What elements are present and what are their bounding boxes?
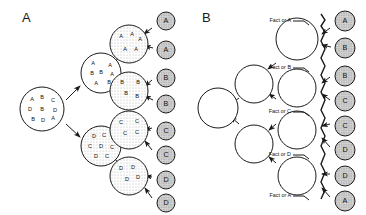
root-pool-letter-6: B xyxy=(31,116,35,122)
edge-b-lower-to-f4 xyxy=(269,157,276,163)
clone-pool-c-letter-1: C xyxy=(135,118,139,124)
edge-b-lower-to-f3 xyxy=(269,124,276,130)
clone-pool-a-letter-3: A xyxy=(123,46,127,52)
leaf-b-a-1-label: A xyxy=(343,16,348,25)
factor-label-a-bottom: Fact or A xyxy=(269,192,291,198)
mid-pool-ab-letter-5: A xyxy=(94,80,98,86)
leaf-b-1-label: B xyxy=(164,73,169,82)
mid-node-upper xyxy=(235,65,273,103)
mid-pool-ab-letter-6: B xyxy=(107,79,111,85)
panel-b: BFact or AFact or BFact or CFact or DFac… xyxy=(198,10,355,211)
factor-label-c: Fact or C xyxy=(269,108,291,114)
factor-label-b: Fact or B xyxy=(269,64,291,70)
edge-d-to-leaf2 xyxy=(145,188,152,198)
root-pool-letter-5: D xyxy=(53,107,57,113)
panel-label-A: A xyxy=(22,10,31,25)
mid-pool-ab-letter-4: A xyxy=(110,71,114,77)
factor-label-a-bottom-pointer xyxy=(293,196,309,200)
figure-svg: AABCDBDBDAAABBAABDCDCDCDCAAAAABBBBCCCCDD… xyxy=(0,0,366,215)
clone-pool-a xyxy=(110,25,148,63)
clone-pool-b xyxy=(110,72,148,110)
mid-pool-ab-letter-0: A xyxy=(91,60,95,66)
clone-pool-d-letter-3: D xyxy=(136,174,140,180)
clone-pool-d-letter-0: D xyxy=(119,165,123,171)
figure-root: AABCDBDBDAAABBAABDCDCDCDCAAAAABBBBCCCCDD… xyxy=(0,0,366,215)
leaf-c-2-label: C xyxy=(163,150,168,159)
leaf-b-a-2-label: A xyxy=(343,196,348,205)
mid-pool-ab-letter-3: B xyxy=(99,69,103,75)
clone-pool-a-letter-0: A xyxy=(119,33,123,39)
factor-label-d: Fact or D xyxy=(269,151,291,157)
factor-label-a-top: Fact or A xyxy=(269,17,291,23)
root-pool-letter-8: A xyxy=(51,115,55,121)
leaf-a-1-label: A xyxy=(164,16,169,25)
leaf-a-2-label: A xyxy=(164,45,169,54)
clone-pool-c-letter-0: C xyxy=(119,119,123,125)
leaf-d-2-label: D xyxy=(163,198,168,207)
root-pool-letter-0: A xyxy=(30,96,34,102)
mid-pool-cd-letter-0: D xyxy=(92,133,96,139)
leaf-c-1-label: C xyxy=(163,126,168,135)
leaf-b-c-2-label: C xyxy=(342,121,347,130)
clone-pool-b-letter-3: B xyxy=(135,93,139,99)
leaf-b-d-1-label: D xyxy=(342,145,347,154)
edge-root-to-ab xyxy=(66,86,80,100)
clone-pool-d-letter-2: D xyxy=(125,176,129,182)
leaf-d-1-label: D xyxy=(163,175,168,184)
mid-pool-cd-letter-1: C xyxy=(102,132,106,138)
mid-pool-cd-letter-6: D xyxy=(94,153,98,159)
mid-pool-ab-letter-1: A xyxy=(108,62,112,68)
edge-a-to-leaf1 xyxy=(144,28,152,34)
mid-pool-ab-letter-2: B xyxy=(90,70,94,76)
factor-bracket xyxy=(321,14,325,199)
mid-pool-cd-letter-3: C xyxy=(88,143,92,149)
root-pool-letter-4: B xyxy=(40,106,44,112)
root-pool-letter-7: D xyxy=(41,117,45,123)
panel-label-B: B xyxy=(202,10,211,25)
panel-a: AABCDBDBDAAABBAABDCDCDCDCAAAAABBBBCCCCDD… xyxy=(20,10,175,212)
root-pool-letter-2: C xyxy=(51,97,55,103)
leaf-b-c-1-label: C xyxy=(342,96,347,105)
root-pool-letter-3: D xyxy=(28,106,32,112)
leaf-b-b-1-label: B xyxy=(343,43,348,52)
clone-pool-c-letter-2: C xyxy=(123,130,127,136)
leaf-b-d-2-label: D xyxy=(342,171,347,180)
leaf-b-b-2-label: B xyxy=(343,71,348,80)
mid-node-lower xyxy=(235,125,273,163)
root-pool-letter-1: B xyxy=(40,94,44,100)
clone-pool-d-letter-1: D xyxy=(131,164,135,170)
leaf-b-2-label: B xyxy=(164,99,169,108)
mid-pool-cd-letter-7: C xyxy=(105,153,109,159)
mid-pool-cd-letter-5: C xyxy=(110,144,114,150)
root-node xyxy=(198,88,238,128)
factor-node-1 xyxy=(276,18,318,60)
factor-node-4 xyxy=(278,157,316,195)
mid-pool-cd-letter-4: D xyxy=(99,143,103,149)
factor-node-2 xyxy=(278,69,316,107)
clone-pool-c-letter-3: C xyxy=(135,129,139,135)
clone-pool-b-letter-1: B xyxy=(136,79,140,85)
clone-pool-a-letter-1: A xyxy=(130,31,134,37)
edge-c-to-leaf2 xyxy=(145,141,152,150)
factor-node-3 xyxy=(278,111,316,149)
edge-root-to-cd xyxy=(66,124,80,137)
clone-pool-b-letter-2: B xyxy=(124,90,128,96)
clone-pool-a-letter-4: A xyxy=(134,46,138,52)
clone-pool-c xyxy=(110,111,148,149)
clone-pool-b-letter-0: B xyxy=(120,79,124,85)
clone-pool-a-letter-2: A xyxy=(138,36,142,42)
